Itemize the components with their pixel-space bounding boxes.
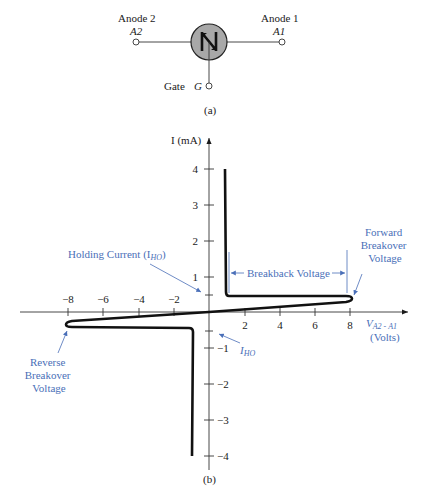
svg-text:−3: −3 xyxy=(217,414,229,426)
svg-text:−1: −1 xyxy=(217,342,229,354)
breakback-voltage-label: Breakback Voltage xyxy=(247,267,330,279)
caption-b: (b) xyxy=(203,473,216,486)
svg-text:−2: −2 xyxy=(168,293,180,305)
iv-chart: −8 −6 −4 −2 2 4 6 8 4 3 2 1 −1 xyxy=(20,134,409,486)
svg-text:−4: −4 xyxy=(217,450,229,462)
forward-breakover-arrow-icon xyxy=(354,274,362,295)
anode1-label: Anode 1 xyxy=(261,12,299,24)
svg-text:4: 4 xyxy=(277,319,283,331)
anode2-symbol: A2 xyxy=(129,25,143,37)
svg-text:6: 6 xyxy=(312,319,318,331)
forward-curve xyxy=(209,169,352,312)
gate-symbol: G xyxy=(194,80,202,92)
forward-breakover-label: Forward Breakover Voltage xyxy=(361,226,410,264)
svg-text:2: 2 xyxy=(242,319,248,331)
svg-text:1: 1 xyxy=(193,271,199,283)
y-axis-label: I (mA) xyxy=(171,134,202,147)
svg-text:2: 2 xyxy=(193,235,199,247)
svg-text:−4: −4 xyxy=(133,293,145,305)
anode1-terminal xyxy=(279,39,285,45)
triac-schematic: Anode 2 A2 Anode 1 A1 Gate G (a) xyxy=(118,12,299,117)
svg-text:−2: −2 xyxy=(217,378,229,390)
svg-text:−8: −8 xyxy=(62,293,74,305)
reverse-curve xyxy=(66,312,209,456)
reverse-breakover-label: Reverse Breakover Voltage xyxy=(25,356,74,394)
anode2-label: Anode 2 xyxy=(118,12,156,24)
triac-figure: Anode 2 A2 Anode 1 A1 Gate G (a) xyxy=(0,0,431,497)
anode1-symbol: A1 xyxy=(272,25,285,37)
svg-text:4: 4 xyxy=(193,163,199,175)
reverse-breakover-arrow-icon xyxy=(58,331,67,353)
anode2-terminal xyxy=(133,39,139,45)
x-axis-label: VA2 - A1 xyxy=(366,317,397,331)
svg-text:8: 8 xyxy=(347,319,353,331)
iho-negative-label: IHO xyxy=(239,344,255,358)
caption-a: (a) xyxy=(204,104,217,117)
holding-current-label: Holding Current (IHO) xyxy=(68,248,166,262)
svg-text:−6: −6 xyxy=(97,293,109,305)
x-axis-units: (Volts) xyxy=(370,331,400,344)
gate-terminal xyxy=(206,83,212,89)
gate-label: Gate xyxy=(164,80,185,92)
svg-text:3: 3 xyxy=(193,199,199,211)
